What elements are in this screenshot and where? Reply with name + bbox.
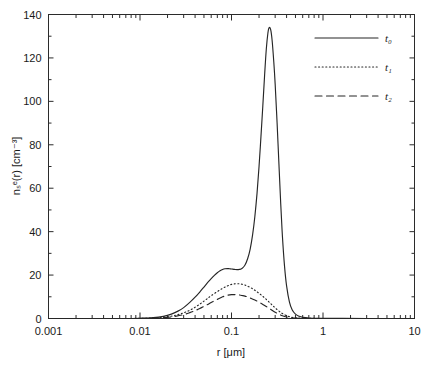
x-tick-label: 10 <box>408 325 420 337</box>
y-axis-ticks <box>49 15 415 319</box>
y-axis-tick-labels: 020406080100120140 <box>23 9 41 325</box>
x-tick-label: 0.1 <box>224 325 239 337</box>
x-tick-label: 0.01 <box>129 325 150 337</box>
x-axis-tick-labels: 0.0010.010.1110 <box>35 325 421 337</box>
curve-series-0 <box>49 27 415 318</box>
plot-frame <box>49 15 415 319</box>
figure-container: 020406080100120140 0.0010.010.1110 r [μm… <box>0 0 433 368</box>
chart-legend: t₀t₁t₂ <box>315 32 392 102</box>
y-tick-label: 100 <box>23 95 41 107</box>
y-tick-label: 60 <box>29 182 41 194</box>
x-axis-ticks <box>49 15 415 319</box>
y-tick-label: 20 <box>29 269 41 281</box>
x-tick-label: 1 <box>320 325 326 337</box>
y-tick-label: 140 <box>23 9 41 21</box>
legend-label-1: t₁ <box>385 61 392 73</box>
legend-label-0: t₀ <box>385 32 392 44</box>
x-axis-title: r [μm] <box>217 346 245 358</box>
y-tick-label: 120 <box>23 52 41 64</box>
chart-plot: 020406080100120140 0.0010.010.1110 r [μm… <box>0 0 433 368</box>
y-axis-title: nₛᵉ(r) [cm⁻³] <box>10 137 22 196</box>
y-tick-label: 80 <box>29 139 41 151</box>
legend-label-2: t₂ <box>385 90 392 102</box>
y-tick-label: 0 <box>35 313 41 325</box>
y-tick-label: 40 <box>29 226 41 238</box>
x-tick-label: 0.001 <box>35 325 63 337</box>
data-curves <box>49 27 415 318</box>
